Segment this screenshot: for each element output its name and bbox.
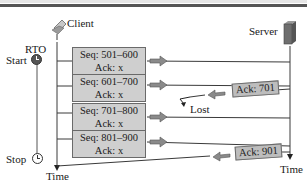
clock-icon: [32, 153, 43, 164]
segment-box: Seq: 601–700 Ack: x: [72, 74, 146, 102]
segment-seq: Seq: 801–900: [73, 131, 145, 144]
clock-icon: [31, 54, 42, 65]
segment-seq: Seq: 501–600: [73, 48, 145, 61]
client-time-label: Time: [46, 170, 69, 182]
segment-ack: Ack: x: [73, 117, 145, 130]
lost-label: Lost: [190, 103, 210, 115]
segment-seq: Seq: 601–700: [73, 75, 145, 88]
laptop-icon: [52, 18, 68, 40]
rto-start-label: Start: [6, 54, 27, 66]
segment-ack: Ack: x: [73, 61, 145, 74]
server-label: Server: [249, 25, 278, 37]
server-time-label: Time: [280, 163, 303, 175]
rto-stop-label: Stop: [6, 153, 26, 165]
client-label: Client: [67, 17, 94, 29]
segment-box: Seq: 801–900 Ack: x: [72, 130, 146, 158]
server-icon: [282, 20, 298, 46]
segment-ack: Ack: x: [73, 144, 145, 157]
segment-ack: Ack: x: [73, 88, 145, 101]
segment-box: Seq: 501–600 Ack: x: [72, 47, 146, 75]
segment-seq: Seq: 701–800: [73, 104, 145, 117]
segment-box: Seq: 701–800 Ack: x: [72, 103, 146, 131]
